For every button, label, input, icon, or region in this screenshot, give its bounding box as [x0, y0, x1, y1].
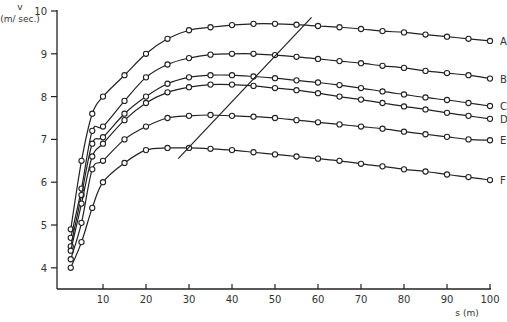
data-point-marker [487, 138, 492, 143]
data-point-marker [122, 111, 127, 116]
data-point-marker [100, 141, 105, 146]
data-point-marker [315, 80, 320, 85]
data-point-marker [251, 114, 256, 119]
data-point-marker [466, 36, 471, 41]
data-point-marker [444, 172, 449, 177]
data-point-marker [68, 265, 73, 270]
y-tick-label: 8 [41, 92, 47, 103]
data-point-marker [186, 28, 191, 33]
data-point-marker [423, 132, 428, 137]
data-point-marker [143, 51, 148, 56]
data-point-marker [466, 73, 471, 78]
data-point-marker [487, 177, 492, 182]
data-point-marker [401, 104, 406, 109]
data-point-marker [466, 113, 471, 118]
data-point-marker [143, 75, 148, 80]
data-point-marker [380, 63, 385, 68]
diagonal-annotation-line [178, 17, 311, 158]
line-chart: 45678910 102030405060708090100 ABCDEF v … [0, 0, 507, 322]
data-point-marker [79, 201, 84, 206]
data-point-marker [90, 128, 95, 133]
data-point-marker [251, 150, 256, 155]
data-point-marker [487, 116, 492, 121]
y-axis-label-unit: (m/ sec.) [0, 14, 40, 24]
data-point-marker [229, 113, 234, 118]
data-point-marker [90, 205, 95, 210]
x-tick-label: 20 [140, 294, 153, 305]
axes [57, 10, 491, 289]
x-tick-label: 40 [226, 294, 239, 305]
data-point-marker [165, 90, 170, 95]
data-point-marker [337, 25, 342, 30]
data-point-marker [208, 146, 213, 151]
x-tick-label: 80 [398, 294, 411, 305]
data-point-marker [165, 145, 170, 150]
data-point-marker [358, 61, 363, 66]
data-point-marker [208, 52, 213, 57]
data-point-marker [337, 58, 342, 63]
series-d: D [68, 82, 507, 253]
data-point-marker [337, 94, 342, 99]
data-point-marker [272, 115, 277, 120]
data-point-marker [423, 107, 428, 112]
data-point-marker [186, 85, 191, 90]
series-a: A [68, 21, 507, 232]
data-point-marker [90, 167, 95, 172]
x-tick-label: 70 [355, 294, 368, 305]
series-line [71, 24, 490, 230]
data-point-marker [143, 124, 148, 129]
data-point-marker [229, 51, 234, 56]
series-line [71, 54, 490, 238]
data-point-marker [315, 156, 320, 161]
data-point-marker [380, 126, 385, 131]
data-point-marker [487, 76, 492, 81]
data-point-marker [272, 76, 277, 81]
series-label: A [500, 36, 507, 47]
data-point-marker [229, 148, 234, 153]
data-point-marker [380, 29, 385, 34]
data-point-marker [208, 25, 213, 30]
x-ticks: 102030405060708090100 [97, 284, 500, 305]
data-point-marker [143, 100, 148, 105]
data-point-marker [229, 82, 234, 87]
x-tick-label: 100 [480, 294, 499, 305]
data-point-marker [423, 68, 428, 73]
data-point-marker [122, 98, 127, 103]
data-point-marker [401, 129, 406, 134]
data-point-marker [251, 83, 256, 88]
data-point-marker [90, 111, 95, 116]
data-point-marker [444, 34, 449, 39]
data-point-marker [444, 134, 449, 139]
data-point-marker [444, 110, 449, 115]
data-point-marker [229, 73, 234, 78]
data-point-marker [100, 94, 105, 99]
y-tick-label: 5 [41, 220, 47, 231]
data-point-marker [79, 220, 84, 225]
y-ticks: 45678910 [34, 6, 57, 274]
data-point-marker [186, 113, 191, 118]
data-point-marker [186, 55, 191, 60]
data-point-marker [208, 73, 213, 78]
annotation-layer [178, 17, 311, 158]
data-point-marker [272, 152, 277, 157]
y-tick-label: 9 [41, 49, 47, 60]
data-point-marker [100, 158, 105, 163]
data-point-marker [122, 118, 127, 123]
data-point-marker [315, 56, 320, 61]
data-point-marker [294, 22, 299, 27]
data-point-marker [380, 89, 385, 94]
data-point-marker [294, 88, 299, 93]
data-point-marker [90, 154, 95, 159]
data-point-marker [122, 73, 127, 78]
series-label: C [500, 101, 507, 112]
data-point-marker [401, 30, 406, 35]
data-point-marker [466, 100, 471, 105]
data-point-marker [100, 135, 105, 140]
data-point-marker [487, 38, 492, 43]
x-tick-label: 90 [441, 294, 454, 305]
y-tick-label: 6 [41, 177, 47, 188]
data-point-marker [294, 154, 299, 159]
data-point-marker [251, 21, 256, 26]
data-point-marker [294, 78, 299, 83]
data-point-marker [68, 257, 73, 262]
